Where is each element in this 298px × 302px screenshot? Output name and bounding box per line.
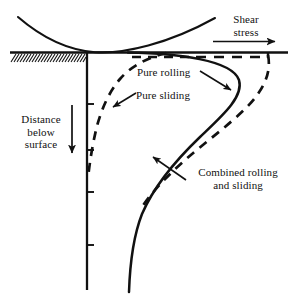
- combined-label-line1: Combined rolling: [186, 166, 290, 179]
- pure-rolling-pointer: [200, 71, 231, 90]
- shear-stress-label-line2: stress: [216, 26, 276, 39]
- shear-stress-label: Shear stress: [216, 13, 276, 38]
- distance-label-line2: below: [13, 126, 69, 139]
- combined-label-line2: and sliding: [186, 179, 290, 192]
- combined-rolling-sliding-label: Combined rolling and sliding: [186, 166, 290, 191]
- pure-sliding-label: Pure sliding: [136, 89, 190, 102]
- distance-label-line1: Distance: [13, 113, 69, 126]
- diagram-canvas: Shear stress Pure rolling Pure sliding C…: [0, 0, 298, 302]
- distance-below-surface-label: Distance below surface: [13, 113, 69, 151]
- body-profile-parabola: [18, 17, 215, 52]
- pure-sliding-pointer: [113, 93, 136, 107]
- combined-pointer: [153, 157, 186, 180]
- shear-stress-depth-diagram: [0, 0, 298, 302]
- pure-rolling-label: Pure rolling: [137, 66, 190, 79]
- distance-label-line3: surface: [13, 138, 69, 151]
- shear-stress-label-line1: Shear: [216, 13, 276, 26]
- surface-hatching: [11, 54, 86, 62]
